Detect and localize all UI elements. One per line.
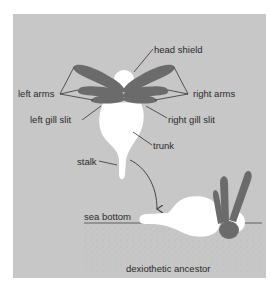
trunk bbox=[99, 102, 144, 179]
label-stalk: stalk bbox=[77, 157, 97, 167]
label-right-gill-slit: right gill slit bbox=[168, 115, 215, 125]
transition-arrow bbox=[130, 160, 157, 209]
label-right-arms: right arms bbox=[193, 89, 235, 99]
diagram-canvas bbox=[0, 0, 274, 292]
label-dexiothetic-ancestor: dexiothetic ancestor bbox=[126, 264, 211, 274]
label-head-shield: head shield bbox=[154, 45, 203, 55]
label-left-gill-slit: left gill slit bbox=[30, 115, 71, 125]
label-left-arms: left arms bbox=[18, 89, 54, 99]
label-sea-bottom: sea bottom bbox=[84, 212, 131, 222]
label-trunk: trunk bbox=[153, 141, 174, 151]
